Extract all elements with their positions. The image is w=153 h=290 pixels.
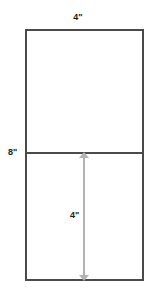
- vertical-dimension-line: [83, 155, 85, 277]
- inner-segment-label: 4": [70, 211, 79, 220]
- top-width-label: 4": [73, 13, 82, 22]
- left-height-label: 8": [8, 148, 17, 157]
- geometry-diagram: 4" 8" 4": [0, 0, 153, 290]
- arrow-down-icon: [79, 275, 89, 281]
